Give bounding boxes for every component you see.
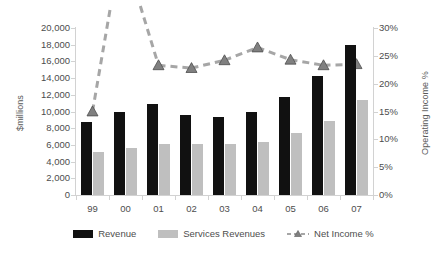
y-axis-left-tick-mark [71, 61, 75, 62]
legend-swatch-revenue-icon [73, 230, 93, 238]
net-income-line-segment [225, 47, 258, 60]
net-income-marker [87, 106, 98, 116]
legend-item-services-revenues: Services Revenues [158, 228, 265, 239]
legend-label-services-revenues: Services Revenues [183, 228, 265, 239]
y-axis-left-tick-mark [71, 112, 75, 113]
bar-revenue [345, 45, 356, 195]
x-axis-tick-mark [373, 196, 374, 200]
y-axis-right-tick-mark [374, 28, 378, 29]
bar-services-revenues [192, 144, 203, 195]
x-axis-tick-mark [142, 196, 143, 200]
x-axis-tick-mark [274, 196, 275, 200]
legend-item-revenue: Revenue [73, 228, 136, 239]
bar-services-revenues [126, 148, 137, 195]
net-income-marker [252, 42, 263, 52]
bar-revenue [147, 104, 158, 195]
y-axis-left-tick-mark [71, 162, 75, 163]
bar-services-revenues [225, 144, 236, 195]
bar-services-revenues [93, 152, 104, 195]
bar-services-revenues [291, 133, 302, 195]
plot-area [76, 28, 373, 195]
y-axis-right-tick-mark [374, 112, 378, 113]
y-axis-left-tick-mark [71, 178, 75, 179]
x-axis-tick-mark [307, 196, 308, 200]
legend-swatch-services-icon [158, 230, 178, 238]
chart-legend: Revenue Services Revenues Net Income % [0, 228, 447, 239]
bar-services-revenues [357, 100, 368, 195]
bar-revenue [81, 122, 92, 195]
x-axis-tick-mark [175, 196, 176, 200]
bar-revenue [213, 117, 224, 195]
legend-swatch-net-income-icon [287, 229, 309, 239]
legend-label-net-income: Net Income % [314, 228, 374, 239]
y-axis-left-tick-mark [71, 195, 75, 196]
net-income-line-segment [258, 47, 291, 59]
bar-services-revenues [324, 121, 335, 195]
y-axis-right-tick-mark [374, 56, 378, 57]
x-axis-tick-mark [76, 196, 77, 200]
y-axis-right-tick-mark [374, 195, 378, 196]
bar-revenue [279, 97, 290, 195]
legend-label-revenue: Revenue [98, 228, 136, 239]
x-axis-tick-mark [208, 196, 209, 200]
y-axis-left-tick-mark [71, 128, 75, 129]
y-axis-right-tick-mark [374, 139, 378, 140]
legend-item-net-income: Net Income % [287, 228, 374, 239]
x-axis-tick-label: 07 [337, 203, 377, 214]
bar-services-revenues [159, 144, 170, 195]
y-axis-left-tick-mark [71, 78, 75, 79]
net-income-line-segment [159, 65, 192, 68]
bar-revenue [246, 112, 257, 196]
y-axis-left-tick-mark [71, 28, 75, 29]
y-axis-right-tick-mark [374, 167, 378, 168]
bar-revenue [180, 115, 191, 195]
bar-services-revenues [258, 142, 269, 195]
x-axis-tick-mark [241, 196, 242, 200]
y-axis-left-tick-mark [71, 45, 75, 46]
y-axis-left-tick-mark [71, 145, 75, 146]
bar-revenue [114, 112, 125, 196]
bar-revenue [312, 76, 323, 195]
x-axis-tick-mark [109, 196, 110, 200]
y-axis-right-tick-mark [374, 84, 378, 85]
y-axis-left-tick-mark [71, 95, 75, 96]
chart-container: $millions Operating Income % 02,0004,000… [0, 0, 447, 255]
x-axis-tick-mark [340, 196, 341, 200]
